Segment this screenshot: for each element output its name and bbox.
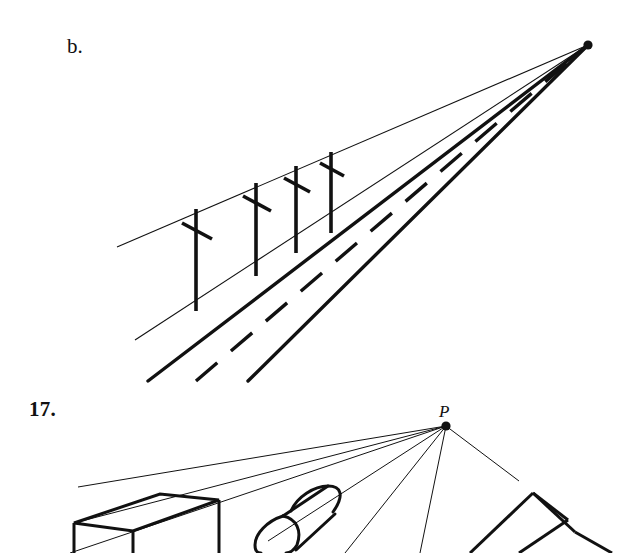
triangular-prism-solid (470, 493, 612, 553)
perspective-guidelines-group (70, 426, 519, 553)
cylinder-top-side (283, 486, 328, 516)
guideline-prism-apex (446, 426, 519, 481)
guideline-prism-left (420, 426, 446, 553)
cylinder-solid (255, 486, 340, 553)
prism-right-slope (519, 520, 568, 553)
guideline-box-top-back (78, 426, 446, 487)
guideline-cylinder-side (345, 426, 446, 553)
exercise-number-label: 17. (29, 399, 56, 420)
vanishing-point-label-P: P (439, 403, 449, 420)
guideline-box-top-front (74, 426, 446, 523)
figure-17-perspective-solids (0, 0, 631, 553)
prism-ridge-and-left-face (470, 493, 533, 553)
prism-left-slope (533, 493, 575, 532)
cylinder-near-cap-far-edge (283, 516, 299, 553)
vanishing-point-dot-P (441, 421, 450, 430)
prism-back-edge (575, 532, 612, 553)
box-top-face (74, 494, 219, 531)
worksheet-page: b. 17. P (0, 0, 631, 553)
figure-b-label: b. (67, 36, 83, 57)
